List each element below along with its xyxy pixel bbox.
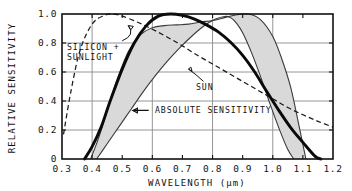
x-tick-label: 0.8 — [203, 163, 222, 174]
x-tick-label: 0.4 — [83, 163, 102, 174]
x-tick-label: 1.0 — [263, 163, 282, 174]
x-tick-label: 0.3 — [53, 163, 72, 174]
annotation-silicon-sunlight-line1: SILICON + — [67, 42, 119, 52]
x-tick-label: 0.5 — [113, 163, 132, 174]
y-tick-label: 1.0 — [38, 8, 57, 19]
annotation-absolute-sensitivity-label: ABSOLUTE SENSITIVITY — [155, 105, 272, 115]
x-axis-label: WAVELENGTH (μm) — [148, 178, 246, 188]
y-tick-label: 0.4 — [38, 95, 57, 106]
x-tick-label: 1.1 — [293, 163, 312, 174]
x-tick-label: 0.9 — [233, 163, 252, 174]
y-tick-label: 0.8 — [38, 37, 57, 48]
annotation-silicon-sunlight-line2: SUNLIGHT — [67, 52, 114, 62]
x-tick-label: 1.2 — [324, 163, 343, 174]
y-axis-label: RELATIVE SENSITIVITY — [7, 23, 17, 153]
y-tick-label: 0.2 — [38, 124, 57, 135]
sensitivity-chart-svg: 0.30.40.50.60.70.80.91.01.11.200.20.40.6… — [0, 0, 352, 191]
x-tick-label: 0.6 — [143, 163, 162, 174]
y-tick-label: 0 — [51, 153, 57, 164]
annotation-sun-label: SUN — [196, 82, 214, 92]
chart-figure: 0.30.40.50.60.70.80.91.01.11.200.20.40.6… — [0, 0, 352, 191]
x-tick-label: 0.7 — [173, 163, 192, 174]
y-tick-label: 0.6 — [38, 66, 57, 77]
